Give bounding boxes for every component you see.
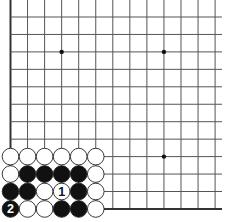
- stone-disc: [19, 201, 36, 218]
- white-stone[interactable]: 1: [53, 183, 70, 200]
- stone-disc: [2, 148, 19, 165]
- white-stone[interactable]: [36, 183, 53, 200]
- black-stone[interactable]: 2: [2, 201, 19, 218]
- stone-disc: [19, 183, 36, 200]
- white-stone[interactable]: [19, 148, 36, 165]
- go-board[interactable]: 12: [0, 0, 228, 222]
- stone-disc: [2, 166, 19, 183]
- stone-disc: [87, 166, 104, 183]
- stone-disc: [36, 183, 53, 200]
- star-point: [162, 154, 166, 158]
- white-stone[interactable]: [36, 201, 53, 218]
- stone-disc: [53, 148, 70, 165]
- star-point: [59, 50, 63, 54]
- black-stone[interactable]: [19, 183, 36, 200]
- white-stone[interactable]: [2, 166, 19, 183]
- black-stone[interactable]: [36, 166, 53, 183]
- stone-disc: [87, 183, 104, 200]
- black-stone[interactable]: [2, 183, 19, 200]
- stone-disc: [2, 183, 19, 200]
- white-stone[interactable]: [87, 183, 104, 200]
- stone-disc: [87, 201, 104, 218]
- black-stone[interactable]: [70, 201, 87, 218]
- black-stone[interactable]: [70, 183, 87, 200]
- move-number-label: 2: [7, 202, 14, 216]
- stone-disc: [36, 166, 53, 183]
- white-stone[interactable]: [87, 148, 104, 165]
- white-stone[interactable]: [19, 201, 36, 218]
- black-stone[interactable]: [53, 166, 70, 183]
- black-stone[interactable]: [53, 201, 70, 218]
- stone-disc: [70, 148, 87, 165]
- stone-disc: [36, 201, 53, 218]
- white-stone[interactable]: [2, 148, 19, 165]
- stone-disc: [53, 166, 70, 183]
- stone-disc: [70, 166, 87, 183]
- white-stone[interactable]: [87, 201, 104, 218]
- black-stone[interactable]: [70, 166, 87, 183]
- white-stone[interactable]: [70, 148, 87, 165]
- stone-disc: [19, 148, 36, 165]
- stone-disc: [70, 201, 87, 218]
- stone-disc: [70, 183, 87, 200]
- stone-disc: [19, 166, 36, 183]
- move-number-label: 1: [58, 185, 65, 199]
- stone-disc: [36, 148, 53, 165]
- star-point: [162, 50, 166, 54]
- black-stone[interactable]: [19, 166, 36, 183]
- white-stone[interactable]: [87, 166, 104, 183]
- white-stone[interactable]: [53, 148, 70, 165]
- stone-disc: [87, 148, 104, 165]
- stone-disc: [53, 201, 70, 218]
- white-stone[interactable]: [36, 148, 53, 165]
